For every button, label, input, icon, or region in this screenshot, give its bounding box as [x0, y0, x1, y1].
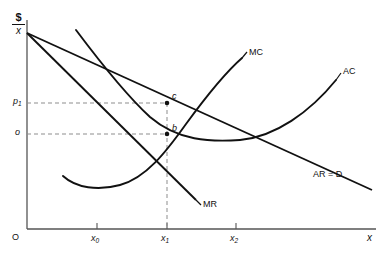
- curve-label-mc: MC: [249, 48, 263, 57]
- curve-label-ar-d: AR = D: [313, 170, 342, 179]
- point-c: [165, 101, 170, 106]
- chart-canvas: [0, 0, 388, 262]
- y-axis-label: $ x: [12, 12, 25, 36]
- point-label-b: b: [172, 124, 177, 133]
- curve-ar-d: [27, 33, 372, 190]
- label-leaders: [196, 52, 341, 205]
- leader-mc: [242, 52, 247, 58]
- x-tick-label-x2: x2: [230, 234, 238, 245]
- y-axis-label-numerator: $: [12, 12, 25, 24]
- curve-label-ac: AC: [343, 67, 356, 76]
- curve-label-mr: MR: [203, 200, 217, 209]
- y-tick-label-p1: p1: [13, 97, 22, 108]
- leader-mr: [196, 200, 201, 205]
- guide-lines: [27, 103, 167, 229]
- leader-ac: [336, 73, 341, 80]
- axis-group: [27, 20, 376, 229]
- y-axis-label-denominator: x: [12, 25, 25, 36]
- x-tick-label-x0: x0: [91, 234, 99, 245]
- curve-mc: [63, 58, 242, 188]
- curve-mr: [27, 33, 196, 200]
- curve-ac: [76, 30, 336, 141]
- y-tick-label-o: o: [15, 128, 20, 139]
- point-b: [165, 132, 170, 137]
- point-label-c: c: [172, 92, 177, 101]
- origin-label: O: [12, 233, 19, 242]
- x-axis-label: x: [367, 233, 372, 243]
- x-tick-label-x1: x1: [161, 234, 169, 245]
- economics-cost-revenue-figure: $ x p1 o O x0 x1 x2 x MC AC AR = D MR c …: [0, 0, 388, 262]
